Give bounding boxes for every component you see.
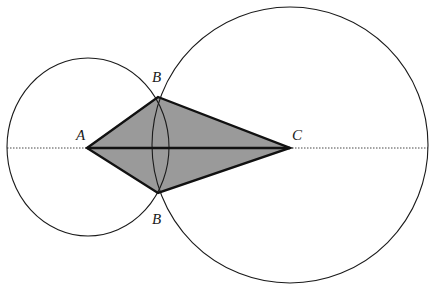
label-b-bottom: B — [152, 212, 161, 227]
label-a: A — [76, 128, 85, 143]
kite-construction-diagram — [0, 0, 430, 286]
label-c: C — [292, 128, 302, 143]
label-b-top: B — [152, 70, 161, 85]
kite-shape — [87, 97, 290, 193]
